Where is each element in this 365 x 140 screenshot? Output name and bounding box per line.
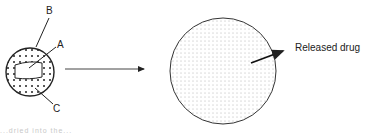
particle-after [170, 18, 276, 124]
released-drug-label: Released drug [295, 42, 360, 53]
partial-caption: ...dried into the... [0, 127, 72, 134]
drug-release-diagram: B A C Released drug [0, 0, 365, 140]
label-a: A [57, 39, 64, 50]
drug-core [15, 62, 42, 79]
particle-before [6, 18, 56, 104]
leader-b [36, 18, 49, 47]
label-c: C [53, 103, 60, 114]
label-b: B [46, 5, 53, 16]
